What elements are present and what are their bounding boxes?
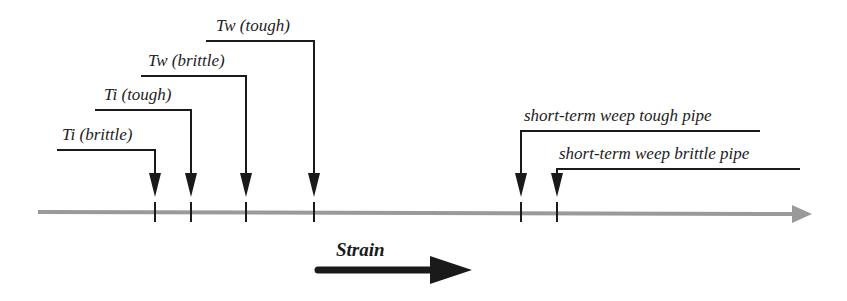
arrowhead-down-icon [308, 173, 320, 197]
markers: Ti (brittle)Ti (tough)Tw (brittle)Tw (to… [57, 16, 800, 222]
strain-direction: Strain [318, 239, 472, 284]
marker-label: Ti (brittle) [62, 125, 133, 144]
axis-line [38, 212, 795, 214]
leader-line [557, 169, 800, 176]
strain-diagram: Ti (brittle)Ti (tough)Tw (brittle)Tw (to… [0, 0, 847, 301]
marker-ti-brittle: Ti (brittle) [57, 125, 161, 222]
arrowhead-down-icon [515, 173, 527, 197]
marker-label: short-term weep tough pipe [524, 106, 712, 125]
marker-weep-tough: short-term weep tough pipe [515, 106, 760, 222]
leader-line [57, 150, 155, 176]
strain-arrow-head-icon [430, 256, 472, 284]
marker-tw-tough: Tw (tough) [206, 16, 320, 222]
strain-label: Strain [336, 239, 385, 260]
marker-ti-tough: Ti (tough) [95, 85, 197, 222]
marker-label: Tw (tough) [216, 16, 290, 35]
arrowhead-down-icon [551, 173, 563, 197]
axis-arrowhead-icon [792, 205, 812, 223]
marker-label: Tw (brittle) [148, 51, 225, 70]
arrowhead-down-icon [149, 173, 161, 197]
arrowhead-down-icon [185, 173, 197, 197]
marker-label: Ti (tough) [104, 85, 172, 104]
marker-weep-brittle: short-term weep brittle pipe [551, 144, 800, 222]
arrowhead-down-icon [240, 173, 252, 197]
marker-tw-brittle: Tw (brittle) [141, 51, 252, 222]
marker-label: short-term weep brittle pipe [559, 144, 750, 163]
